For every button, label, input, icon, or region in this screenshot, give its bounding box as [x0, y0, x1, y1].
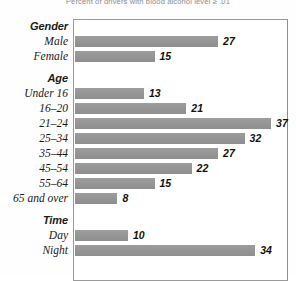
bar: [75, 36, 218, 47]
bar: [75, 163, 192, 174]
bar-value-label: 15: [160, 177, 172, 190]
category-label: 45–54: [0, 161, 68, 176]
bar-value-label: 8: [122, 192, 128, 205]
group-spacer: [0, 206, 296, 213]
chart-title: Percent of drivers with blood alcohol le…: [0, 0, 296, 7]
bar: [75, 193, 117, 204]
bar-value-label: 34: [260, 244, 272, 257]
bar-value-label: 13: [149, 87, 161, 100]
bar-value-label: 22: [197, 162, 209, 175]
bar-row-65-and-over: 65 and over8: [0, 191, 296, 206]
category-label: 35–44: [0, 146, 68, 161]
bar: [75, 245, 255, 256]
bar-row-male: Male27: [0, 34, 296, 49]
bar: [75, 118, 271, 129]
category-label: Day: [0, 228, 68, 243]
bar-value-label: 10: [133, 229, 145, 242]
group-label: Gender: [0, 19, 68, 34]
category-label: 55–64: [0, 176, 68, 191]
bar: [75, 230, 128, 241]
group-header-gender: Gender: [0, 19, 296, 34]
category-label: Night: [0, 243, 68, 258]
group-spacer: [0, 64, 296, 71]
bar-row-55-64: 55–6415: [0, 176, 296, 191]
category-label: 25–34: [0, 131, 68, 146]
bar-row-16-20: 16–2021: [0, 101, 296, 116]
bar-row-45-54: 45–5422: [0, 161, 296, 176]
group-label: Time: [0, 213, 68, 228]
bar: [75, 103, 186, 114]
bar-value-label: 27: [223, 147, 235, 160]
bar-row-25-34: 25–3432: [0, 131, 296, 146]
group-header-time: Time: [0, 213, 296, 228]
bar-row-21-24: 21–2437: [0, 116, 296, 131]
category-label: Under 16: [0, 86, 68, 101]
chart-rows: GenderMale27Female15AgeUnder 161316–2021…: [0, 19, 296, 258]
category-label: Male: [0, 34, 68, 49]
bar-row-under-16: Under 1613: [0, 86, 296, 101]
bar-value-label: 15: [160, 50, 172, 63]
bar-value-label: 37: [276, 117, 288, 130]
bar: [75, 51, 155, 62]
group-label: Age: [0, 71, 68, 86]
category-label: 21–24: [0, 116, 68, 131]
bar: [75, 88, 144, 99]
bar: [75, 178, 155, 189]
group-header-age: Age: [0, 71, 296, 86]
bar-row-day: Day10: [0, 228, 296, 243]
category-label: 65 and over: [0, 191, 68, 206]
category-label: 16–20: [0, 101, 68, 116]
bar: [75, 148, 218, 159]
bar-row-35-44: 35–4427: [0, 146, 296, 161]
bar-row-female: Female15: [0, 49, 296, 64]
bar-value-label: 32: [250, 132, 262, 145]
bar-value-label: 27: [223, 35, 235, 48]
bar: [75, 133, 245, 144]
bar-value-label: 21: [191, 102, 203, 115]
bar-row-night: Night34: [0, 243, 296, 258]
category-label: Female: [0, 49, 68, 64]
